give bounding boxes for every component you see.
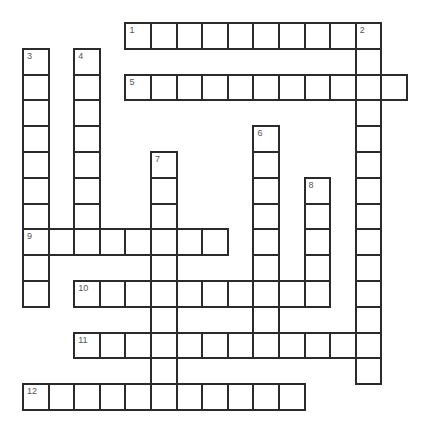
grid-cell[interactable] — [278, 332, 306, 360]
grid-cell[interactable] — [99, 332, 127, 360]
grid-cell[interactable] — [227, 332, 255, 360]
grid-cell[interactable] — [355, 280, 383, 308]
grid-cell[interactable] — [252, 177, 280, 205]
grid-cell[interactable] — [150, 332, 178, 360]
grid-cell[interactable] — [355, 228, 383, 256]
grid-cell[interactable] — [22, 177, 50, 205]
grid-cell[interactable] — [355, 357, 383, 385]
grid-cell[interactable] — [201, 228, 229, 256]
grid-cell[interactable] — [22, 74, 50, 102]
grid-cell[interactable] — [150, 383, 178, 411]
grid-cell[interactable] — [73, 228, 101, 256]
grid-cell[interactable]: 10 — [73, 280, 101, 308]
grid-cell[interactable] — [252, 228, 280, 256]
grid-cell[interactable] — [252, 22, 280, 50]
grid-cell[interactable] — [252, 383, 280, 411]
grid-cell[interactable]: 4 — [73, 48, 101, 76]
grid-cell[interactable] — [201, 22, 229, 50]
grid-cell[interactable] — [227, 22, 255, 50]
grid-cell[interactable] — [355, 125, 383, 153]
grid-cell[interactable] — [73, 203, 101, 231]
grid-cell[interactable] — [355, 99, 383, 127]
grid-cell[interactable] — [304, 228, 332, 256]
grid-cell[interactable] — [150, 203, 178, 231]
grid-cell[interactable] — [252, 332, 280, 360]
grid-cell[interactable]: 3 — [22, 48, 50, 76]
grid-cell[interactable] — [227, 280, 255, 308]
grid-cell[interactable] — [252, 203, 280, 231]
grid-cell[interactable] — [252, 151, 280, 179]
grid-cell[interactable] — [278, 22, 306, 50]
grid-cell[interactable] — [22, 125, 50, 153]
grid-cell[interactable] — [124, 332, 152, 360]
grid-cell[interactable] — [329, 74, 357, 102]
grid-cell[interactable] — [355, 74, 383, 102]
grid-cell[interactable] — [150, 177, 178, 205]
grid-cell[interactable] — [150, 306, 178, 334]
grid-cell[interactable] — [73, 151, 101, 179]
grid-cell[interactable] — [176, 332, 204, 360]
grid-cell[interactable] — [355, 332, 383, 360]
grid-cell[interactable] — [48, 228, 76, 256]
grid-cell[interactable] — [73, 125, 101, 153]
grid-cell[interactable] — [22, 203, 50, 231]
grid-cell[interactable] — [355, 203, 383, 231]
grid-cell[interactable]: 5 — [124, 74, 152, 102]
grid-cell[interactable] — [252, 306, 280, 334]
grid-cell[interactable] — [124, 383, 152, 411]
grid-cell[interactable] — [48, 383, 76, 411]
grid-cell[interactable] — [227, 383, 255, 411]
grid-cell[interactable] — [304, 22, 332, 50]
grid-cell[interactable] — [252, 74, 280, 102]
grid-cell[interactable] — [304, 254, 332, 282]
grid-cell[interactable] — [22, 280, 50, 308]
grid-cell[interactable] — [227, 74, 255, 102]
grid-cell[interactable] — [201, 280, 229, 308]
grid-cell[interactable] — [150, 254, 178, 282]
grid-cell[interactable] — [355, 177, 383, 205]
grid-cell[interactable] — [99, 383, 127, 411]
grid-cell[interactable] — [73, 383, 101, 411]
grid-cell[interactable] — [304, 74, 332, 102]
grid-cell[interactable] — [355, 48, 383, 76]
grid-cell[interactable]: 8 — [304, 177, 332, 205]
grid-cell[interactable] — [278, 383, 306, 411]
grid-cell[interactable] — [22, 151, 50, 179]
grid-cell[interactable] — [355, 254, 383, 282]
grid-cell[interactable] — [99, 228, 127, 256]
grid-cell[interactable] — [73, 99, 101, 127]
grid-cell[interactable] — [355, 306, 383, 334]
grid-cell[interactable] — [73, 177, 101, 205]
grid-cell[interactable] — [150, 280, 178, 308]
grid-cell[interactable] — [304, 280, 332, 308]
grid-cell[interactable] — [252, 280, 280, 308]
grid-cell[interactable] — [73, 74, 101, 102]
grid-cell[interactable] — [329, 22, 357, 50]
grid-cell[interactable] — [150, 357, 178, 385]
grid-cell[interactable] — [176, 74, 204, 102]
grid-cell[interactable] — [252, 254, 280, 282]
grid-cell[interactable] — [201, 74, 229, 102]
grid-cell[interactable] — [329, 332, 357, 360]
grid-cell[interactable] — [124, 228, 152, 256]
grid-cell[interactable]: 1 — [124, 22, 152, 50]
grid-cell[interactable] — [150, 22, 178, 50]
grid-cell[interactable]: 9 — [22, 228, 50, 256]
grid-cell[interactable] — [380, 74, 408, 102]
grid-cell[interactable] — [278, 280, 306, 308]
grid-cell[interactable] — [22, 99, 50, 127]
grid-cell[interactable] — [124, 280, 152, 308]
grid-cell[interactable] — [201, 332, 229, 360]
grid-cell[interactable] — [176, 228, 204, 256]
grid-cell[interactable] — [176, 280, 204, 308]
grid-cell[interactable] — [355, 151, 383, 179]
grid-cell[interactable] — [150, 228, 178, 256]
grid-cell[interactable] — [99, 280, 127, 308]
grid-cell[interactable] — [278, 74, 306, 102]
grid-cell[interactable] — [304, 203, 332, 231]
grid-cell[interactable]: 12 — [22, 383, 50, 411]
grid-cell[interactable] — [176, 383, 204, 411]
grid-cell[interactable]: 7 — [150, 151, 178, 179]
grid-cell[interactable] — [22, 254, 50, 282]
grid-cell[interactable] — [201, 383, 229, 411]
